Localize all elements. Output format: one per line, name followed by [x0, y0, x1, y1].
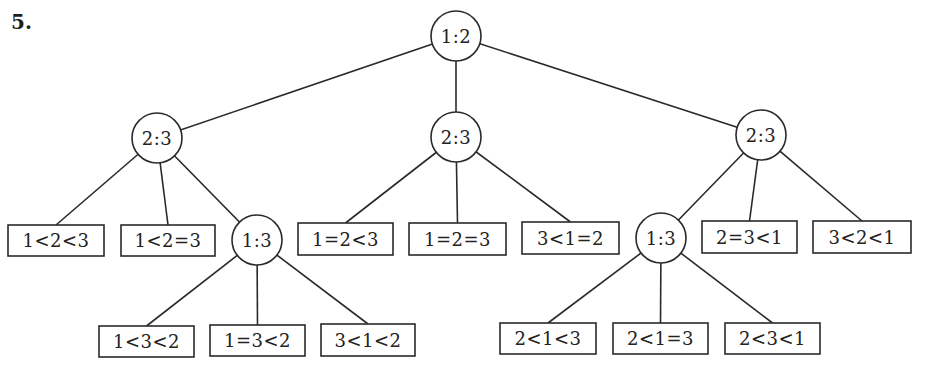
comparison-label: 1:3 — [636, 213, 686, 263]
outcome-label: 1=2=3 — [409, 223, 506, 255]
outcome-label: 1<2<3 — [8, 225, 104, 256]
comparison-label: 2:3 — [736, 110, 786, 160]
comparison-label: 2:3 — [431, 112, 481, 162]
outcome-label: 2=3<1 — [702, 221, 797, 253]
comparison-label: 1:3 — [232, 215, 282, 265]
outcome-label: 2<1=3 — [613, 323, 708, 354]
tree-edge — [456, 36, 761, 135]
outcome-label: 1<3<2 — [99, 326, 194, 357]
outcome-label: 3<1<2 — [321, 324, 415, 356]
tree-edges — [56, 36, 862, 326]
tree-nodes — [8, 11, 911, 357]
outcome-label: 1=3<2 — [210, 325, 305, 356]
outcome-label: 1<2=3 — [121, 225, 215, 256]
outcome-label: 1=2<3 — [298, 223, 393, 255]
tree-edge — [157, 36, 456, 138]
outcome-label: 3<2<1 — [813, 221, 911, 253]
comparison-label: 1:2 — [431, 11, 481, 61]
comparison-label: 2:3 — [132, 113, 182, 163]
outcome-label: 2<1<3 — [500, 323, 596, 354]
outcome-label: 2<3<1 — [725, 323, 820, 354]
outcome-label: 3<1=2 — [522, 222, 619, 254]
